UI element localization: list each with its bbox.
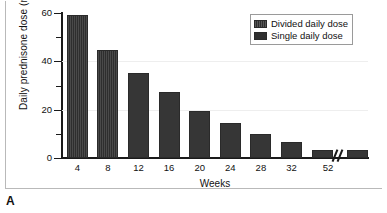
y-axis-major-tick — [54, 61, 61, 62]
bar — [281, 142, 302, 158]
bar — [189, 111, 210, 158]
y-axis-major-tick — [54, 13, 61, 14]
bar — [128, 73, 149, 158]
legend-label-divided: Divided daily dose — [271, 19, 348, 29]
y-axis-major-tick — [54, 158, 61, 159]
single-dose-swatch-icon — [254, 32, 267, 40]
x-axis-title: Weeks — [62, 178, 368, 189]
bar — [312, 150, 333, 158]
y-axis-tick-label: 20 — [30, 105, 52, 114]
x-axis-tick-label: 8 — [93, 162, 123, 173]
x-axis-tick-label: 52 — [313, 162, 343, 173]
bar — [97, 50, 118, 158]
panel-label: A — [6, 194, 15, 208]
x-axis-tick-label: 32 — [277, 162, 307, 173]
y-axis-minor-tick — [56, 86, 61, 87]
bar — [250, 134, 271, 158]
x-axis-tick-label: 20 — [185, 162, 215, 173]
bar — [67, 15, 88, 158]
y-axis-tick-label: 40 — [30, 56, 52, 65]
x-axis-tick-label: 28 — [246, 162, 276, 173]
bar — [220, 123, 241, 158]
bar — [159, 92, 180, 158]
x-axis-tick-label: 16 — [154, 162, 184, 173]
y-axis-tick-labels: 0204060 — [26, 0, 52, 213]
figure-panel: Daily prednisone dose (mg) 0204060 48121… — [0, 0, 387, 213]
legend-label-single: Single daily dose — [271, 31, 343, 41]
y-axis-major-tick — [54, 110, 61, 111]
bar — [347, 150, 368, 158]
legend-item-single: Single daily dose — [254, 30, 348, 41]
x-axis-tick-label: 24 — [215, 162, 245, 173]
y-axis-tick-label: 60 — [30, 8, 52, 17]
figure-border-left — [5, 1, 6, 189]
x-axis-tick-label: 12 — [124, 162, 154, 173]
legend: Divided daily dose Single daily dose — [250, 14, 353, 45]
y-axis-minor-tick — [56, 37, 61, 38]
legend-item-divided: Divided daily dose — [254, 18, 348, 29]
axis-break-slashes-icon — [331, 149, 345, 163]
y-axis-tick-label: 0 — [30, 153, 52, 162]
x-axis-tick-label: 4 — [62, 162, 92, 173]
y-axis-minor-tick — [56, 134, 61, 135]
divided-dose-swatch-icon — [254, 20, 267, 28]
